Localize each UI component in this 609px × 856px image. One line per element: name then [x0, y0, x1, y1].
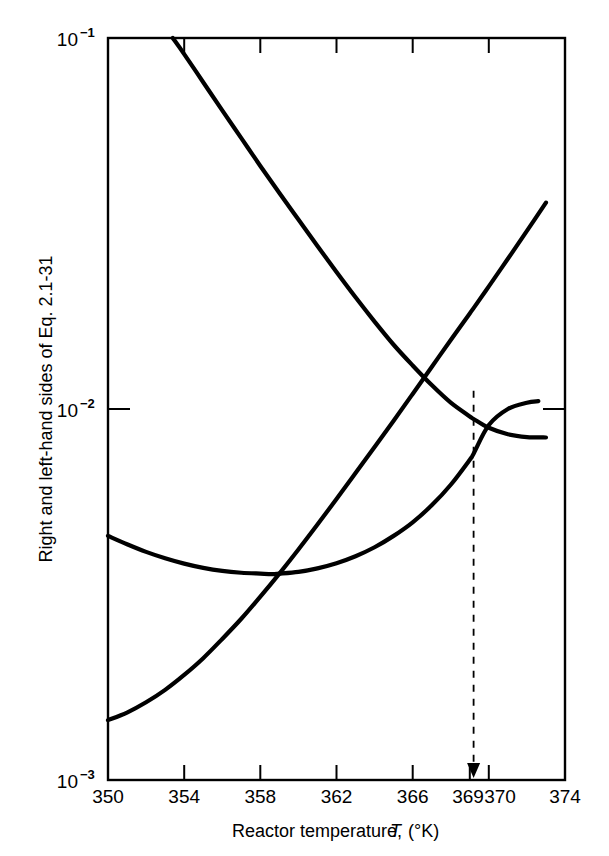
x-axis-title-lead: Reactor temperature,	[232, 821, 402, 841]
curve-left-hand-side	[108, 203, 546, 721]
x-tick-label-1: 354	[168, 786, 200, 807]
x-tick-label-3: 362	[321, 786, 353, 807]
x-tick-marks-top	[184, 38, 489, 53]
plot-frame	[108, 38, 565, 780]
y-tick-exp-1e-3: −3	[80, 767, 95, 782]
y-tick-label-1e-2: 10 −2	[57, 396, 95, 421]
y-tick-label-1e-1: 10 −1	[57, 25, 95, 50]
x-axis-title: Reactor temperature, T (°K)	[232, 821, 439, 841]
curve-right-hand-side	[173, 38, 546, 437]
y-tick-labels: 10 −1 10 −2 10 −3	[57, 25, 95, 792]
x-tick-label-0: 350	[92, 786, 124, 807]
y-axis-title: Right and left-hand sides of Eq. 2.1-31	[36, 255, 56, 562]
x-tick-label-4: 366	[397, 786, 429, 807]
chart-canvas: 350 354 358 362 366 369 370 374 10 −1 10…	[0, 0, 609, 856]
x-tick-label-5: 369	[452, 786, 484, 807]
y-tick-label-1e-3: 10 −3	[57, 767, 95, 792]
data-curves	[108, 38, 546, 720]
y-tick-base-1e-2: 10	[57, 400, 78, 421]
x-tick-labels: 350 354 358 362 366 369 370 374	[92, 786, 581, 807]
x-tick-label-2: 358	[244, 786, 276, 807]
x-axis-title-units: (°K)	[408, 821, 439, 841]
x-tick-label-7: 374	[549, 786, 581, 807]
y-tick-exp-1e-1: −1	[80, 25, 95, 40]
y-tick-base-1e-1: 10	[57, 29, 78, 50]
x-tick-marks	[108, 765, 565, 780]
y-tick-exp-1e-2: −2	[80, 396, 95, 411]
x-tick-label-6: 370	[484, 786, 516, 807]
figure-root: 350 354 358 362 366 369 370 374 10 −1 10…	[0, 0, 609, 856]
y-tick-base-1e-3: 10	[57, 771, 78, 792]
